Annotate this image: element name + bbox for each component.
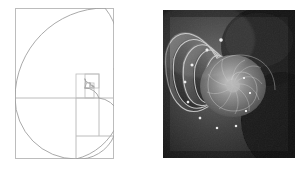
- photo-film-grain: [163, 10, 295, 158]
- nautilus-photograph-panel: [163, 10, 295, 158]
- figure-root: [0, 0, 302, 173]
- nautilus-svg: [163, 10, 295, 158]
- golden-spiral-diagram-panel: [15, 8, 114, 159]
- golden-spiral-svg: [15, 8, 114, 159]
